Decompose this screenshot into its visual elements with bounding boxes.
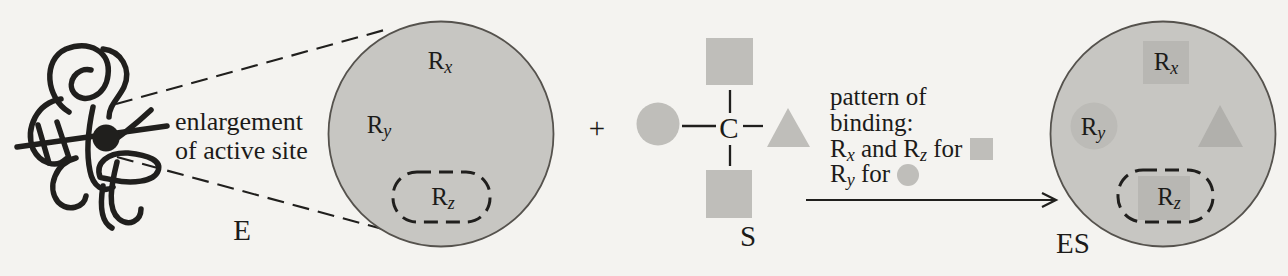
residue-rx-ref: Rx (830, 135, 855, 162)
residue-subscript: z (448, 193, 455, 213)
plus-operator: + (589, 113, 605, 143)
es-residue-rx-label: Rx (1154, 49, 1179, 75)
residue-ry-label: Ry (367, 112, 392, 138)
residue-subscript: y (1097, 123, 1105, 143)
residue-subscript: y (383, 121, 391, 141)
es-residue-rz-label: Rz (1157, 184, 1181, 210)
residue-base: R (1154, 48, 1171, 75)
enzyme-label: E (233, 215, 251, 245)
annotation-line1: enlargement (175, 107, 308, 136)
binding-line-1: pattern of (830, 84, 993, 110)
substrate-triangle-group (767, 108, 810, 147)
binding-pattern-text: pattern of binding: Rx and Rz for Ry for (830, 84, 993, 187)
es-residue-ry-label: Ry (1081, 114, 1106, 140)
binding-line-4: Ry for (830, 161, 993, 187)
residue-base: R (367, 111, 384, 138)
reaction-arrow (806, 193, 1056, 207)
residue-rz-label: Rz (431, 184, 455, 210)
substrate-carbon-label: C (719, 113, 738, 143)
residue-base: R (1081, 113, 1098, 140)
substrate-label: S (740, 221, 756, 251)
binding-line-2: binding: (830, 110, 993, 136)
circle-group-icon (897, 164, 919, 186)
binding-for-text: for (855, 160, 897, 187)
residue-ry-ref: Ry (830, 160, 855, 187)
residue-subscript: z (1174, 193, 1181, 213)
residue-base: R (428, 47, 445, 74)
active-site-dot (93, 125, 120, 152)
residue-subscript: x (444, 57, 452, 77)
enzyme-squiggle (17, 46, 167, 228)
substrate-square-top (706, 38, 753, 85)
substrate-circle-group (637, 103, 680, 146)
binding-line-3: Rx and Rz for (830, 136, 993, 162)
residue-base: R (1157, 183, 1174, 210)
residue-subscript: x (1170, 58, 1178, 78)
figure-enzyme-substrate-binding: enlargement of active site E Rx Ry Rz + … (0, 0, 1288, 276)
substrate-square-bottom (706, 170, 752, 218)
residue-rz-ref: Rz (903, 135, 927, 162)
complex-label: ES (1056, 228, 1090, 258)
annotation-line2: of active site (175, 136, 308, 165)
binding-and-text: and (855, 135, 904, 162)
residue-rx-label: Rx (428, 48, 453, 74)
square-group-icon (970, 138, 993, 160)
residue-base: R (431, 183, 448, 210)
enlargement-annotation: enlargement of active site (175, 107, 308, 165)
binding-for-text: for (927, 135, 969, 162)
